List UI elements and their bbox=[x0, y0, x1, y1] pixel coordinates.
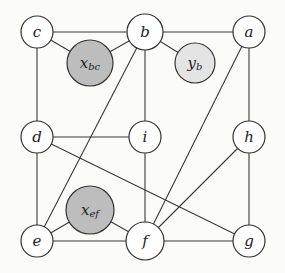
node-label: a bbox=[245, 23, 254, 41]
node-b: b bbox=[127, 14, 163, 50]
node-subscript: bc bbox=[88, 61, 100, 72]
node-label: e bbox=[33, 232, 42, 250]
node-label: d bbox=[32, 128, 42, 146]
node-i: i bbox=[129, 121, 161, 153]
node-label: b bbox=[140, 23, 150, 41]
node-subscript: b bbox=[196, 61, 202, 72]
node-d: d bbox=[21, 121, 53, 153]
node-xef: xef bbox=[66, 186, 114, 234]
node-yb: yb bbox=[175, 43, 215, 83]
node-c: c bbox=[21, 16, 53, 48]
edge-h-f bbox=[145, 137, 249, 241]
node-label: g bbox=[244, 232, 254, 250]
graph-diagram: cbaxbcybdihxefefg bbox=[0, 0, 285, 273]
node-f: f bbox=[126, 222, 164, 260]
node-label: c bbox=[33, 23, 42, 41]
node-label: h bbox=[244, 128, 254, 146]
node-h: h bbox=[233, 121, 265, 153]
node-a: a bbox=[233, 16, 265, 48]
node-g: g bbox=[233, 225, 265, 257]
node-label: i bbox=[143, 128, 148, 146]
node-xbc: xbc bbox=[67, 40, 113, 86]
node-e: e bbox=[21, 225, 53, 257]
